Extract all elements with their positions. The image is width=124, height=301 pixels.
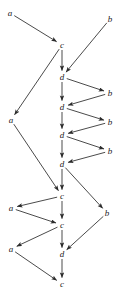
graph-edge bbox=[67, 216, 104, 249]
graph-edge bbox=[67, 79, 104, 91]
edges-group bbox=[14, 16, 107, 281]
graph-edge bbox=[14, 16, 56, 42]
graph-edge bbox=[68, 152, 105, 162]
graph-node-d: d bbox=[60, 131, 65, 140]
graph-edge bbox=[16, 210, 56, 223]
graph-node-c: c bbox=[60, 280, 64, 289]
graph-edge bbox=[68, 123, 105, 133]
graph-node-d: d bbox=[60, 73, 65, 82]
graph-node-a: a bbox=[9, 204, 14, 213]
graph-node-a: a bbox=[9, 245, 14, 254]
graph-diagram: abcdbdbdbdacabcadc bbox=[0, 0, 124, 301]
graph-edge bbox=[17, 197, 57, 206]
graph-edge bbox=[15, 49, 60, 115]
graph-edge bbox=[14, 124, 59, 191]
graph-node-b: b bbox=[108, 147, 113, 156]
graph-node-d: d bbox=[60, 103, 65, 112]
graph-node-d: d bbox=[60, 250, 65, 259]
graph-edge bbox=[15, 252, 57, 281]
graph-node-b: b bbox=[105, 209, 110, 218]
graph-node-b: b bbox=[108, 89, 113, 98]
graph-edge bbox=[67, 108, 104, 120]
graph-node-c: c bbox=[60, 192, 64, 201]
graph-edge bbox=[67, 137, 104, 149]
graph-node-a: a bbox=[8, 9, 13, 18]
graph-edge bbox=[66, 23, 107, 72]
graph-node-b: b bbox=[108, 118, 113, 127]
graph-node-c: c bbox=[60, 221, 64, 230]
graph-node-c: c bbox=[60, 41, 64, 50]
graph-edge bbox=[17, 227, 58, 246]
graph-edge bbox=[65, 168, 102, 209]
graph-node-a: a bbox=[9, 116, 14, 125]
graph-node-b: b bbox=[108, 15, 113, 24]
graph-node-d: d bbox=[60, 160, 65, 169]
graph-edge bbox=[68, 94, 105, 105]
